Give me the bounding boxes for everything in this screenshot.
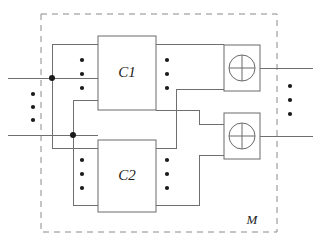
input-wire-2-branch-to-c1 — [73, 100, 98, 135]
diagram-canvas: C1 C2 — [0, 0, 321, 252]
c2-output-wire-bottom — [156, 155, 224, 205]
junction-dot-input-1 — [49, 75, 55, 81]
c1-output-wire-bottom — [156, 110, 224, 124]
input-wire-1-branch-to-c2 — [52, 78, 98, 148]
c1-outputs-ellipsis-icon — [165, 58, 169, 90]
left-inputs-ellipsis-icon — [31, 92, 35, 122]
input-wire-1-branch-to-c1 — [52, 44, 98, 78]
input-wire-2-branch-to-c2 — [73, 135, 98, 205]
c2-output-wire-top — [156, 89, 224, 148]
c2-outputs-ellipsis-icon — [165, 158, 169, 190]
component-label-c2: C2 — [118, 167, 136, 183]
circuit-diagram: C1 C2 — [0, 0, 321, 252]
junction-dot-input-2 — [70, 132, 76, 138]
c2-inputs-ellipsis-icon — [80, 158, 84, 190]
right-outputs-ellipsis-icon — [288, 84, 292, 116]
enclosure-label-m: M — [246, 212, 259, 227]
component-label-c1: C1 — [118, 64, 136, 80]
c1-inputs-ellipsis-icon — [80, 58, 84, 90]
